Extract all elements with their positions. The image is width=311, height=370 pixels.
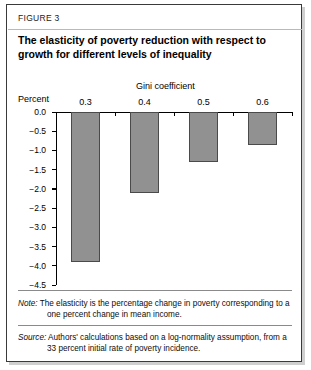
bar — [248, 112, 278, 145]
footnote-divider — [18, 290, 292, 291]
y-tick-label: −4.0 — [18, 261, 46, 271]
x-tick-mark — [115, 112, 116, 116]
x-tick-mark — [233, 112, 234, 116]
source-divider — [18, 325, 292, 326]
y-axis-line — [56, 112, 57, 285]
y-tick-label: −2.0 — [18, 184, 46, 194]
x-tick-mark — [174, 112, 175, 116]
y-tick-label: 0.0 — [18, 107, 46, 117]
source-tag: Source: — [18, 333, 46, 342]
y-tick-label: −3.5 — [18, 242, 46, 252]
source-text: Authors' calculations based on a log-nor… — [47, 333, 287, 353]
y-tick-label: −2.5 — [18, 203, 46, 213]
x-tick-label: 0.4 — [115, 97, 174, 107]
x-axis-title: Gini coefficient — [136, 81, 195, 91]
note-text: The elasticity is the percentage change … — [40, 299, 290, 319]
note-tag: Note: — [18, 299, 38, 308]
y-tick-label: −0.5 — [18, 126, 46, 136]
x-tick-label: 0.5 — [174, 97, 233, 107]
chart-plot-area: Gini coefficient Percent 0.0−0.5−1.0−1.5… — [7, 5, 303, 295]
y-tick-label: −1.0 — [18, 145, 46, 155]
x-tick-label: 0.6 — [233, 97, 292, 107]
y-tick-label: −3.0 — [18, 222, 46, 232]
bar — [130, 112, 160, 193]
x-tick-mark — [292, 112, 293, 116]
source-block: Source: Authors' calculations based on a… — [18, 332, 292, 354]
y-tick-label: −4.5 — [18, 280, 46, 290]
x-tick-label: 0.3 — [56, 97, 115, 107]
figure-card: FIGURE 3 The elasticity of poverty reduc… — [6, 4, 302, 362]
note-block: Note: The elasticity is the percentage c… — [18, 298, 292, 320]
y-tick-label: −1.5 — [18, 165, 46, 175]
y-axis-title: Percent — [18, 94, 49, 104]
bar — [189, 112, 219, 162]
bar — [71, 112, 101, 262]
